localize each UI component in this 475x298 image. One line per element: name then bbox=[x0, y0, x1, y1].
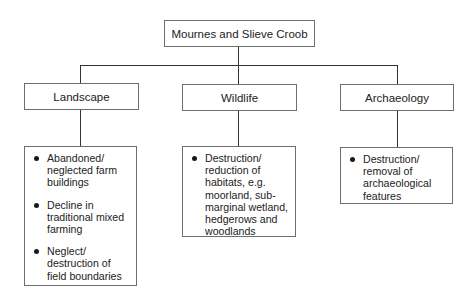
category-node-wildlife: Wildlife bbox=[182, 84, 297, 111]
bullet-icon bbox=[34, 249, 39, 254]
connector-landscape-up bbox=[80, 65, 81, 83]
bullet-icon bbox=[34, 203, 39, 208]
category-node-archaeology: Archaeology bbox=[340, 84, 454, 111]
category-label-archaeology: Archaeology bbox=[365, 92, 429, 104]
connector-wildlife-up bbox=[238, 65, 239, 84]
category-label-wildlife: Wildlife bbox=[221, 92, 258, 104]
list-item-text: Destruction/ removal of archaeological f… bbox=[363, 153, 431, 202]
list-item: Abandoned/ neglected farm buildings bbox=[31, 152, 130, 189]
detail-box-landscape: Abandoned/ neglected farm buildings Decl… bbox=[24, 146, 137, 286]
list-item: Destruction/ removal of archaeological f… bbox=[347, 153, 446, 202]
list-item-text: Decline in traditional mixed farming bbox=[47, 199, 124, 235]
category-node-landscape: Landscape bbox=[24, 83, 139, 110]
connector-archaeology-down bbox=[397, 110, 398, 147]
bullet-icon bbox=[350, 157, 355, 162]
list-item-text: Neglect/ destruction of field boundaries bbox=[47, 245, 122, 281]
detail-box-archaeology: Destruction/ removal of archaeological f… bbox=[340, 147, 453, 204]
list-item: Neglect/ destruction of field boundaries bbox=[31, 245, 130, 282]
list-item-text: Abandoned/ neglected farm buildings bbox=[47, 152, 117, 188]
connector-wildlife-down bbox=[238, 110, 239, 146]
bullet-icon bbox=[192, 156, 197, 161]
detail-box-wildlife: Destruction/ reduction of habitats, e.g.… bbox=[182, 146, 296, 237]
list-item-text: Destruction/ reduction of habitats, e.g.… bbox=[205, 152, 288, 237]
archaeology-list: Destruction/ removal of archaeological f… bbox=[347, 153, 446, 202]
connector-horizontal bbox=[80, 65, 398, 66]
connector-root-down bbox=[238, 46, 239, 66]
connector-archaeology-up bbox=[397, 65, 398, 84]
root-node: Mournes and Slieve Croob bbox=[164, 20, 315, 47]
landscape-list: Abandoned/ neglected farm buildings Decl… bbox=[31, 152, 130, 282]
root-node-label: Mournes and Slieve Croob bbox=[171, 28, 307, 40]
list-item: Decline in traditional mixed farming bbox=[31, 199, 130, 236]
bullet-icon bbox=[34, 156, 39, 161]
connector-landscape-down bbox=[80, 109, 81, 146]
category-label-landscape: Landscape bbox=[53, 91, 109, 103]
list-item: Destruction/ reduction of habitats, e.g.… bbox=[189, 152, 289, 237]
wildlife-list: Destruction/ reduction of habitats, e.g.… bbox=[189, 152, 289, 237]
